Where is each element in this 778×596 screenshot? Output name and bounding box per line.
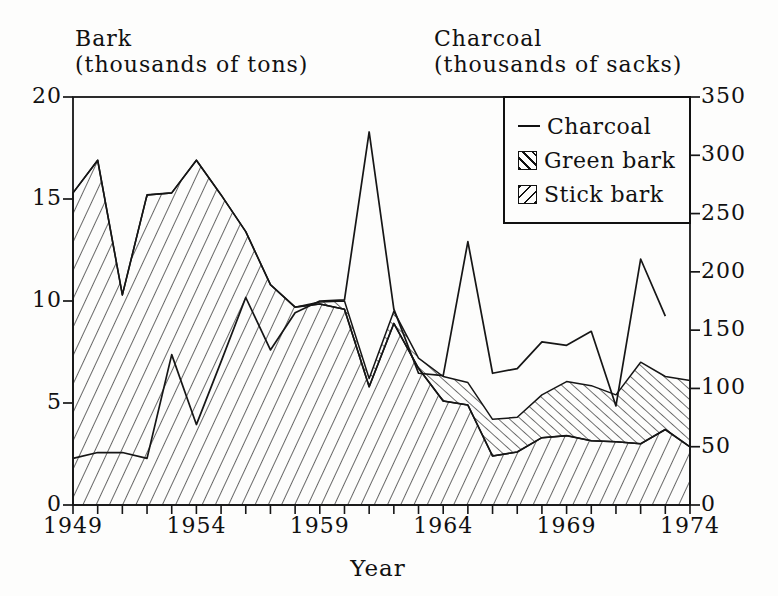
left-axis-tick-label: 10	[0, 287, 62, 313]
right-axis-tick-label: 250	[701, 200, 777, 226]
plot-svg	[0, 0, 778, 596]
right-axis-tick-label: 100	[701, 374, 777, 400]
legend-label-charcoal: Charcoal	[547, 114, 651, 139]
x-axis-tick-label: 1954	[151, 513, 241, 539]
right-axis-tick-label: 350	[701, 83, 777, 109]
right-axis-title-line1: Charcoal	[434, 26, 682, 52]
right-axis-title-line2: (thousands of sacks)	[434, 52, 682, 78]
legend: Charcoal Green bark Stick bark	[503, 96, 691, 224]
right-axis-tick-label: 150	[701, 316, 777, 342]
left-axis-tick-label: 20	[0, 83, 62, 109]
left-axis-title: Bark (thousands of tons)	[75, 26, 308, 78]
bark-charcoal-chart: Bark (thousands of tons) Charcoal (thous…	[0, 0, 778, 596]
right-axis-tick-label: 200	[701, 258, 777, 284]
right-axis-title: Charcoal (thousands of sacks)	[434, 26, 682, 78]
charcoal-line-swatch-icon	[518, 125, 540, 127]
right-axis-tick-label: 300	[701, 141, 777, 167]
green-bark-hatch-swatch-icon	[518, 151, 537, 170]
left-axis-title-line2: (thousands of tons)	[75, 52, 308, 78]
legend-label-stick-bark: Stick bark	[544, 182, 664, 207]
x-axis-tick-label: 1974	[645, 513, 735, 539]
right-axis-tick-label: 50	[701, 433, 777, 459]
x-axis-tick-label: 1964	[398, 513, 488, 539]
x-axis-tick-label: 1949	[28, 513, 118, 539]
x-axis-label: Year	[298, 555, 458, 581]
legend-item-charcoal: Charcoal	[518, 114, 689, 139]
x-axis-tick-label: 1959	[275, 513, 365, 539]
left-axis-tick-label: 15	[0, 185, 62, 211]
left-axis-tick-label: 5	[0, 389, 62, 415]
legend-item-green-bark: Green bark	[518, 148, 689, 173]
x-axis-tick-label: 1969	[522, 513, 612, 539]
left-axis-title-line1: Bark	[75, 26, 308, 52]
legend-label-green-bark: Green bark	[544, 148, 675, 173]
legend-item-stick-bark: Stick bark	[518, 182, 689, 207]
stick-bark-hatch-swatch-icon	[518, 185, 537, 204]
